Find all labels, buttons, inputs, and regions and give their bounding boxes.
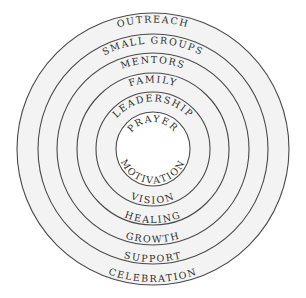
concentric-circles-diagram: OUTREACH SMALL GROUPS MENTORS FAMILY LEA… xyxy=(0,0,306,298)
